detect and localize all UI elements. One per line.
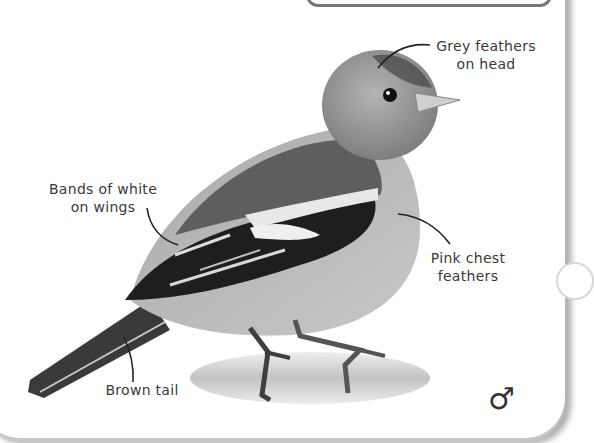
eye	[383, 88, 397, 102]
label-chest: Pink chest feathers	[418, 249, 518, 285]
label-head-line2: on head	[430, 55, 542, 73]
label-wings: Bands of white on wings	[38, 180, 168, 216]
label-head-line1: Grey feathers	[430, 37, 542, 55]
label-wings-line2: on wings	[38, 198, 168, 216]
label-chest-line1: Pink chest	[418, 249, 518, 267]
label-tail: Brown tail	[92, 381, 192, 399]
label-wings-line1: Bands of white	[38, 180, 168, 198]
perch-branch	[190, 352, 430, 404]
male-symbol-icon: ♂	[488, 384, 515, 414]
label-chest-line2: feathers	[418, 267, 518, 285]
label-head: Grey feathers on head	[430, 37, 542, 73]
